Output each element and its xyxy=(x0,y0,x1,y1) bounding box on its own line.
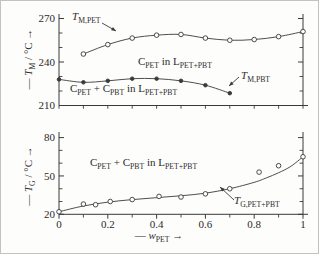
open-circle xyxy=(203,192,208,197)
open-circle xyxy=(228,38,233,43)
filled-circle xyxy=(179,79,183,83)
open-circle xyxy=(203,36,208,41)
bottom-y-tick-label: 50 xyxy=(44,170,56,182)
open-circle xyxy=(301,154,306,159)
x-tick-label: 1 xyxy=(300,218,306,230)
annotation-tg: TG,PET+PBT xyxy=(234,194,280,206)
bottom-y-tick-label: 80 xyxy=(44,131,56,143)
bottom-axes: 20508000.20.40.60.81 xyxy=(44,131,308,230)
filled-circle xyxy=(204,83,208,87)
open-circle xyxy=(276,34,281,39)
open-circle xyxy=(130,36,135,41)
filled-circle xyxy=(57,78,61,82)
open-circle xyxy=(179,32,184,37)
open-circle xyxy=(154,33,159,38)
filled-circle xyxy=(130,77,134,81)
top-y-tick-label: 270 xyxy=(39,12,56,24)
annotation-tm-pbt: TM,PBT xyxy=(241,69,270,81)
open-circle xyxy=(106,42,111,47)
open-circle xyxy=(157,194,162,199)
open-circle xyxy=(257,170,262,175)
annotation-tm-pet: TM,PET xyxy=(72,10,101,22)
open-circle xyxy=(179,195,184,200)
x-tick-label: 0 xyxy=(56,218,62,230)
open-circle xyxy=(228,186,233,191)
open-circle xyxy=(301,29,306,34)
annotation-mix-in-l-bottom: CPET + CPBT in LPET+PBT xyxy=(90,156,197,168)
figure-pet-pbt-thermal-chart: 21024027020508000.20.40.60.81 TM,PET CPE… xyxy=(0,0,319,254)
annotation-cpet-in-l: CPET in LPET+PBT xyxy=(138,55,212,67)
bottom-y-tick-label: 20 xyxy=(44,208,56,220)
open-circle xyxy=(108,199,113,204)
open-circle xyxy=(276,163,281,168)
chart-canvas: 21024027020508000.20.40.60.81 xyxy=(1,1,319,254)
top-y-tick-label: 240 xyxy=(39,56,56,68)
x-tick-label: 0.8 xyxy=(247,218,261,230)
open-circle xyxy=(81,202,86,207)
y-axis-label-top: — TM / °C → xyxy=(22,4,34,114)
top-y-tick-label: 210 xyxy=(39,99,56,111)
open-circle xyxy=(252,37,257,42)
open-circle xyxy=(57,209,62,214)
open-circle xyxy=(81,52,86,57)
filled-circle xyxy=(228,91,232,95)
open-circle xyxy=(93,202,98,207)
panel-bottom: 20508000.20.40.60.81 xyxy=(44,131,308,230)
open-circle xyxy=(130,197,135,202)
x-axis-label: — wPET → xyxy=(109,229,209,241)
series-t-m-pet- xyxy=(81,29,305,56)
annotation-mix-in-l-top: CPET + CPBT in LPET+PBT xyxy=(70,82,177,94)
filled-circle xyxy=(155,77,159,81)
y-axis-label-bottom: — TG / °C → xyxy=(22,121,34,231)
